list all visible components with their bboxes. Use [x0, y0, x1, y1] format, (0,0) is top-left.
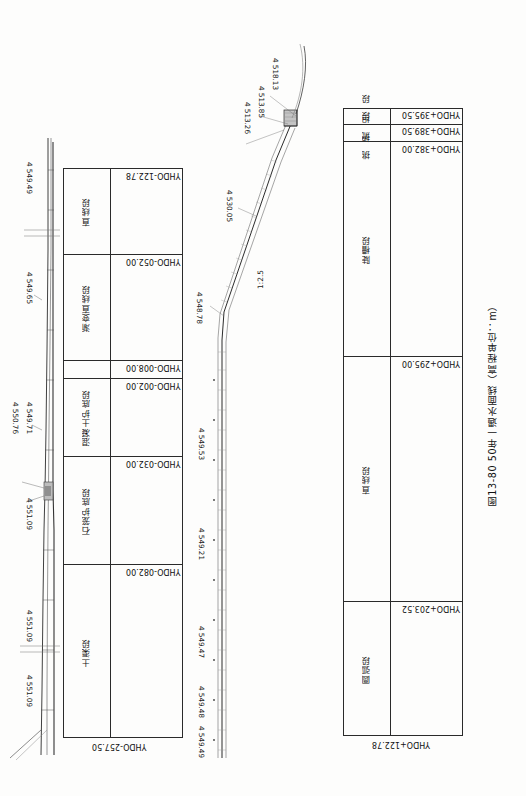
station-label: YHDO+395.50	[402, 110, 460, 119]
station-label: YHDO-082.00	[126, 567, 180, 576]
elevation-label: 4 549.49	[197, 726, 206, 758]
elevation-label: 4 549.48	[197, 686, 206, 718]
table-row[interactable]: 圆弧段 YHDO+203.52	[344, 602, 462, 737]
elevation-label: 4 551.09	[25, 498, 34, 530]
segment-label: 混凝土护底段	[81, 389, 93, 446]
spillway-profile-drawing: 4 518.13 4 513.85 4 513.26 4 530.05 4 54…	[196, 40, 346, 760]
elevation-label: 4 549.65	[25, 272, 34, 304]
table-row[interactable]: 混凝土护底段 YHDO-002.00	[64, 379, 182, 457]
left-profile-svg	[4, 130, 60, 760]
drawing-sheet: 4 549.49 4 549.65 4 549.71 4 550.76 4 55…	[0, 0, 526, 796]
table-row[interactable]: 石笼护底段 YHDO-032.00	[64, 457, 182, 565]
elevation-label: 4 513.85	[257, 86, 266, 118]
station-label: YHDO+295.00	[402, 359, 460, 368]
segment-label: 土渠段	[81, 638, 93, 667]
table-row[interactable]: 土渠段 YHDO-082.00	[64, 565, 182, 739]
station-label: YHDO+203.52	[402, 604, 460, 613]
elevation-label: 4 551.09	[25, 610, 34, 642]
segment-label: 直线段	[361, 465, 373, 494]
table-row[interactable]: 直线段 YHDO+295.00	[344, 357, 462, 602]
elevation-label: 4 549.21	[197, 528, 206, 560]
segment-label-cell: 圆弧段	[344, 602, 390, 737]
segment-label-cell: 混凝土护底段	[64, 379, 110, 456]
segment-label-cell: 挑 流 段	[344, 125, 390, 141]
table-row[interactable]: 陡槽段 YHDO+382.00	[344, 142, 462, 357]
station-label: YHDO-122.78	[126, 171, 180, 180]
station-label: YHDO+382.00	[402, 144, 460, 153]
slope-annotation: 1:2.5	[256, 270, 265, 289]
station-label: YHDO-002.00	[126, 381, 180, 390]
segment-label: 石笼护底段	[81, 487, 93, 535]
segment-label: 直线段	[81, 197, 93, 226]
segment-label-cell	[64, 361, 110, 378]
station-label: YHDO-052.00	[126, 257, 180, 266]
segment-label-cell: 直线段	[344, 357, 390, 601]
left-table-end-station: YHDO-257.50	[92, 742, 146, 751]
elevation-label: 4 551.09	[25, 675, 34, 707]
elevation-label: 4 530.05	[225, 190, 234, 222]
left-profile-drawing: 4 549.49 4 549.65 4 549.71 4 550.76 4 55…	[4, 130, 60, 760]
elevation-label: 4 518.13	[271, 58, 280, 90]
station-label: YHDO+389.50	[402, 126, 460, 135]
elevation-label: 4 550.76	[11, 402, 20, 434]
left-segment-table: 直线段 YHDO-122.78 渐变直线段 YHDO-052.00 YHDO-0…	[63, 168, 183, 738]
right-table-end-station: YHDO+122.78	[372, 740, 430, 749]
elevation-label: 4 549.49	[25, 162, 34, 194]
table-row[interactable]: 直线段 YHDO-122.78	[64, 169, 182, 255]
figure-caption: 图13-80 50年一遇水面线（高程单位：m）	[486, 300, 500, 506]
elevation-label: 4 513.26	[243, 102, 252, 134]
segment-label-cell: 直线段	[64, 169, 110, 254]
spillway-profile-svg	[196, 40, 346, 760]
elevation-label: 4 549.53	[197, 428, 206, 460]
elevation-label: 4 548.78	[195, 292, 204, 324]
table-row[interactable]: 渐变直线段 YHDO-052.00	[64, 255, 182, 361]
segment-label: 圆弧段	[361, 655, 373, 684]
elevation-label: 4 549.47	[197, 626, 206, 658]
segment-label: 陡槽段	[361, 235, 373, 264]
segment-label-cell: 渐变直线段	[64, 255, 110, 360]
right-segment-table: 护 坦 段 YHDO+395.50 挑 流 段 YHDO+389.50 陡槽段 …	[343, 108, 463, 736]
elevation-label: 4 549.71	[25, 402, 34, 434]
station-label: YHDO-008.00	[126, 363, 180, 372]
segment-label-cell: 陡槽段	[344, 142, 390, 356]
station-label: YHDO-032.00	[126, 459, 180, 468]
segment-label-cell: 土渠段	[64, 565, 110, 739]
segment-label: 渐变直线段	[81, 284, 93, 332]
table-row[interactable]: YHDO-008.00	[64, 361, 182, 379]
table-row[interactable]: 挑 流 段 YHDO+389.50	[344, 125, 462, 142]
segment-label-cell: 石笼护底段	[64, 457, 110, 564]
